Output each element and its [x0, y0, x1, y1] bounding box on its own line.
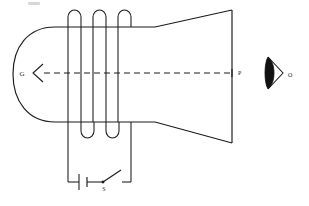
tube-flare-top-edge	[155, 10, 232, 27]
tube-flare-bottom-edge	[155, 122, 232, 143]
coil-top-arch-1	[68, 10, 81, 27]
label-switch-S: S	[102, 186, 105, 192]
tube-outline	[13, 10, 232, 143]
observer-eye-group	[265, 57, 283, 89]
crt-diagram-figure: G P O S	[0, 0, 309, 206]
coil-circuit	[68, 122, 131, 190]
beam-axis-group	[33, 64, 232, 82]
label-screen-point-P: P	[238, 70, 242, 76]
coil-bottom-arc-1	[81, 122, 94, 138]
deflection-coil	[68, 10, 131, 138]
coil-bottom-arc-2	[106, 122, 119, 138]
switch-lever-icon[interactable]	[103, 170, 121, 182]
coil-top-arch-3	[118, 10, 131, 27]
coil-top-arch-2	[93, 10, 106, 27]
beam-direction-arrow-icon	[33, 64, 43, 82]
scan-artifact	[28, 2, 40, 5]
label-cathode-G: G	[19, 70, 24, 78]
crt-diagram-canvas: G P O S	[0, 0, 309, 206]
label-observer-O: O	[288, 72, 293, 78]
